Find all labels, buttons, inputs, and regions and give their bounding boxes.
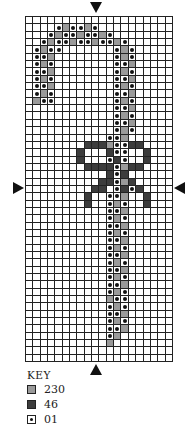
stitch-cell [99, 215, 105, 221]
stitch-cell [26, 296, 32, 302]
stitch-cell [158, 252, 164, 258]
stitch-cell [92, 303, 98, 309]
stitch-cell [33, 24, 39, 30]
stitch-cell [92, 259, 98, 265]
stitch-cell [70, 318, 76, 324]
stitch-cell [144, 223, 150, 229]
stitch-cell [63, 201, 69, 207]
stitch-cell [158, 83, 164, 89]
stitch-cell [99, 112, 105, 118]
stitch-cell [121, 230, 127, 236]
stitch-cell [63, 347, 69, 353]
stitch-cell [77, 112, 83, 118]
stitch-cell [166, 112, 172, 118]
stitch-cell [77, 274, 83, 280]
stitch-cell [129, 105, 135, 111]
stitch-cell [41, 193, 47, 199]
stitch-cell [48, 318, 54, 324]
stitch-cell [48, 274, 54, 280]
stitch-cell [144, 274, 150, 280]
stitch-cell [41, 267, 47, 273]
stitch-cell [144, 340, 150, 346]
stitch-cell [107, 68, 113, 74]
stitch-cell [99, 127, 105, 133]
stitch-cell [121, 105, 127, 111]
stitch-cell [151, 54, 157, 60]
stitch-cell [48, 208, 54, 214]
stitch-cell [41, 135, 47, 141]
stitch-cell [48, 149, 54, 155]
stitch-cell [26, 127, 32, 133]
stitch-cell [33, 90, 39, 96]
stitch-cell [107, 135, 113, 141]
stitch-cell [136, 61, 142, 67]
stitch-cell [107, 98, 113, 104]
stitch-cell [26, 135, 32, 141]
stitch-cell [136, 259, 142, 265]
stitch-cell [70, 340, 76, 346]
stitch-cell [55, 98, 61, 104]
stitch-cell [144, 201, 150, 207]
stitch-cell [92, 245, 98, 251]
stitch-cell [41, 179, 47, 185]
stitch-cell [151, 193, 157, 199]
stitch-cell [151, 289, 157, 295]
stitch-cell [144, 24, 150, 30]
stitch-cell [92, 157, 98, 163]
stitch-cell [99, 61, 105, 67]
stitch-cell [151, 223, 157, 229]
stitch-cell [144, 171, 150, 177]
stitch-cell [77, 281, 83, 287]
stitch-cell [121, 208, 127, 214]
stitch-cell [85, 252, 91, 258]
stitch-cell [63, 54, 69, 60]
stitch-cell [144, 112, 150, 118]
stitch-cell [136, 179, 142, 185]
stitch-cell [99, 333, 105, 339]
stitch-cell [151, 157, 157, 163]
stitch-cell [121, 215, 127, 221]
stitch-cell [129, 223, 135, 229]
stitch-cell [77, 157, 83, 163]
stitch-cell [99, 267, 105, 273]
stitch-cell [70, 267, 76, 273]
stitch-cell [166, 83, 172, 89]
stitch-cell [33, 245, 39, 251]
stitch-cell [151, 208, 157, 214]
stitch-cell [85, 157, 91, 163]
stitch-cell [63, 215, 69, 221]
stitch-cell [158, 237, 164, 243]
stitch-cell [33, 274, 39, 280]
stitch-cell [129, 318, 135, 324]
stitch-cell [55, 112, 61, 118]
stitch-cell [151, 112, 157, 118]
stitch-cell [55, 311, 61, 317]
stitch-cell [26, 120, 32, 126]
stitch-cell [41, 252, 47, 258]
stitch-cell [114, 142, 120, 148]
stitch-cell [63, 296, 69, 302]
stitch-cell [92, 237, 98, 243]
stitch-cell [129, 237, 135, 243]
stitch-cell [48, 54, 54, 60]
stitch-cell [26, 164, 32, 170]
stitch-cell [48, 325, 54, 331]
stitch-cell [166, 68, 172, 74]
stitch-cell [92, 318, 98, 324]
stitch-cell [41, 83, 47, 89]
stitch-cell [85, 135, 91, 141]
stitch-cell [55, 76, 61, 82]
stitch-cell [41, 230, 47, 236]
stitch-cell [158, 355, 164, 361]
stitch-cell [129, 179, 135, 185]
stitch-cell [70, 193, 76, 199]
stitch-cell [63, 39, 69, 45]
stitch-cell [151, 296, 157, 302]
stitch-cell [70, 311, 76, 317]
stitch-cell [114, 289, 120, 295]
stitch-cell [26, 252, 32, 258]
stitch-cell [151, 281, 157, 287]
stitch-cell [151, 32, 157, 38]
stitch-cell [99, 171, 105, 177]
stitch-cell [114, 135, 120, 141]
